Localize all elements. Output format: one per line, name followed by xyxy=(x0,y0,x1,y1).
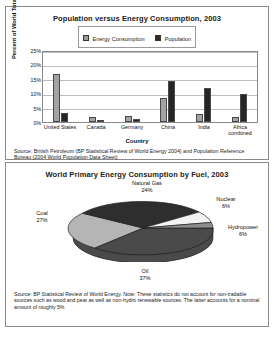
bar-group-india xyxy=(196,52,211,122)
x-label-canada: Canada xyxy=(79,124,113,137)
bar-group-germany xyxy=(125,52,140,122)
legend-label-energy: Energy Consumption xyxy=(92,35,144,41)
bar-chart-source-note: Source: British Petroleum (BP Statistica… xyxy=(14,148,260,161)
pie-chart-source-note: Source: BP Statistical Review of World E… xyxy=(14,291,260,310)
bar-groups xyxy=(43,52,257,122)
legend-swatch-icon-population xyxy=(155,35,161,41)
bar-energy-canada xyxy=(89,117,96,122)
bar-energy-india xyxy=(196,114,203,122)
y-tick-25: 25% xyxy=(31,48,41,54)
x-label-india: India xyxy=(187,124,221,137)
bar-energy-germany xyxy=(125,116,132,122)
pie-label-oil: Oil 37% xyxy=(122,268,168,281)
legend-swatch-icon-energy xyxy=(83,35,89,41)
bar-chart-legend-container: Energy Consumption Population xyxy=(12,26,262,48)
bar-population-united-states xyxy=(61,113,68,122)
y-tick-5: 5% xyxy=(34,106,42,112)
pie-chart-panel: World Primary Energy Consumption by Fuel… xyxy=(5,162,269,327)
bar-population-germany xyxy=(133,119,140,122)
x-label-germany: Germany xyxy=(115,124,149,137)
bar-group-united-states xyxy=(53,52,68,122)
bar-energy-africa-combined xyxy=(232,117,239,122)
pie-label-coal: Coal 27% xyxy=(18,210,66,223)
bar-chart-x-tick-labels: United States Canada Germany China India… xyxy=(42,124,258,137)
bar-group-africa-combined xyxy=(232,52,247,122)
x-label-united-states: United States xyxy=(43,124,77,137)
bar-chart-legend: Energy Consumption Population xyxy=(78,26,196,48)
x-label-africa-combined: Africa combined xyxy=(223,124,257,137)
legend-item-population: Population xyxy=(155,35,191,42)
pie-label-natural-gas: Natural Gas 24% xyxy=(116,180,178,193)
bar-energy-china xyxy=(160,98,167,122)
y-tick-10: 10% xyxy=(31,91,41,97)
bar-energy-united-states xyxy=(53,74,60,122)
bar-chart-y-tick-labels: 25% 20% 15% 10% 5% 0% xyxy=(24,51,41,123)
bar-chart-plot-area xyxy=(42,51,258,123)
legend-item-energy-consumption: Energy Consumption xyxy=(83,35,145,42)
figure-page: Population versus Energy Consumption, 20… xyxy=(0,0,274,341)
pie-label-hydropower: Hydropower 6% xyxy=(215,224,271,237)
y-tick-20: 20% xyxy=(31,62,41,68)
pie-chart-title: World Primary Energy Consumption by Fuel… xyxy=(12,170,262,179)
bar-group-canada xyxy=(89,52,104,122)
pie-chart-plot-area: Natural Gas 24% Nuclear 6% Hydropower 6%… xyxy=(12,182,262,290)
pie-label-nuclear: Nuclear 6% xyxy=(202,196,250,209)
bar-population-africa-combined xyxy=(240,94,247,122)
y-tick-15: 15% xyxy=(31,77,41,83)
bar-population-canada xyxy=(97,120,104,122)
bar-chart-title: Population versus Energy Consumption, 20… xyxy=(12,14,262,23)
x-label-china: China xyxy=(151,124,185,137)
bar-population-india xyxy=(204,88,211,122)
bar-chart-y-axis-title: Percent of World Total xyxy=(11,3,17,59)
legend-label-population: Population xyxy=(165,35,191,41)
bar-chart-x-axis-title: Country xyxy=(12,138,262,144)
bar-group-china xyxy=(160,52,175,122)
bar-chart-panel: Population versus Energy Consumption, 20… xyxy=(5,6,269,160)
bar-population-china xyxy=(168,81,175,122)
y-tick-0: 0% xyxy=(34,120,42,126)
